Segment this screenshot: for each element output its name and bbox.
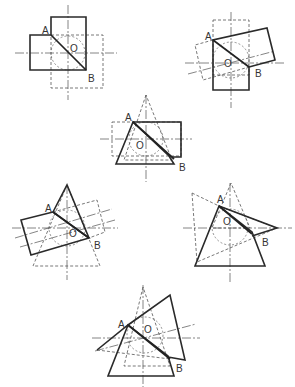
label-b: B xyxy=(255,68,262,79)
rotated-centerline-2 xyxy=(20,220,115,247)
label-a: A xyxy=(217,194,224,205)
panel-2: A B O xyxy=(185,12,285,108)
rotated-centerline-1 xyxy=(15,209,112,238)
label-o: O xyxy=(136,140,144,151)
label-b: B xyxy=(262,237,269,248)
diagram-canvas: A B O A B O A B O xyxy=(0,0,295,387)
label-o: O xyxy=(223,216,231,227)
dashed-cone xyxy=(33,185,100,266)
label-b: B xyxy=(94,240,101,251)
label-o: O xyxy=(144,324,152,335)
dashed-ray xyxy=(97,350,170,359)
panel-3: A B O xyxy=(100,95,192,182)
panel-4: A B O xyxy=(12,185,118,280)
label-o: O xyxy=(69,228,77,239)
label-b: B xyxy=(179,162,186,173)
label-o: O xyxy=(70,43,78,54)
label-o: O xyxy=(224,58,232,69)
label-a: A xyxy=(118,319,125,330)
diagonal-ab xyxy=(51,35,86,70)
label-a: A xyxy=(125,112,132,123)
solid-rotated-quad xyxy=(97,295,185,360)
label-a: A xyxy=(45,203,52,214)
label-b: B xyxy=(88,73,95,84)
panel-5: A B O xyxy=(183,183,292,283)
label-a: A xyxy=(205,31,212,42)
label-b: B xyxy=(176,363,183,374)
dashed-cone xyxy=(212,183,250,228)
panel-1: A B O xyxy=(15,5,117,100)
dashed-rotated-triangle xyxy=(192,193,277,262)
label-a: A xyxy=(42,25,49,36)
panel-6: A B O xyxy=(92,285,200,387)
